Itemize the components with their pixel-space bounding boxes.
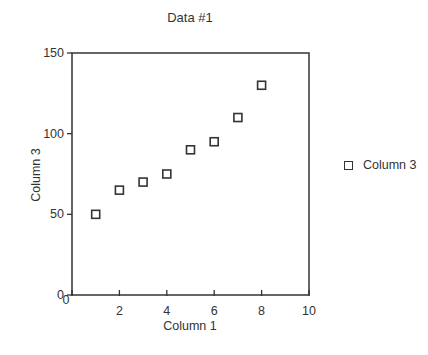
y-axis-label: Column 3 [29,145,43,205]
data-point-square-icon [139,178,147,186]
data-point-square-icon [234,114,242,122]
legend-label: Column 3 [363,158,417,172]
x-tick-label: 8 [258,304,265,318]
y-tick-label: 50 [50,207,64,221]
scatter-plot-area: 0501001500246810 [0,0,428,355]
y-tick-label: 150 [43,46,64,60]
data-point-square-icon [115,186,123,194]
data-point-square-icon [163,170,171,178]
data-point-square-icon [92,210,100,218]
x-tick-label: 6 [211,304,218,318]
x-axis-label: Column 1 [140,319,240,333]
data-point-square-icon [187,146,195,154]
legend: Column 3 [344,158,417,172]
axes [72,53,309,295]
data-point-square-icon [210,138,218,146]
legend-square-marker-icon [344,161,353,170]
x-tick-label: 2 [116,304,123,318]
data-point-square-icon [258,81,266,89]
axis-ticks: 0501001500246810 [43,46,316,318]
y-tick-label: 100 [43,127,64,141]
x-tick-label: 4 [163,304,170,318]
x-tick-label: 10 [302,304,316,318]
x-tick-label: 0 [63,293,70,307]
data-points [92,81,266,218]
plot-frame [72,53,309,295]
